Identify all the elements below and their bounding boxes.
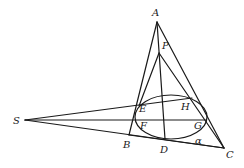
- segment-SH: [25, 98, 192, 120]
- segment-AB: [129, 22, 157, 135]
- label-D: D: [159, 144, 168, 155]
- inscribed-ellipse: [135, 95, 207, 139]
- label-H: H: [180, 101, 190, 112]
- label-B: B: [122, 139, 130, 150]
- label-alpha: α: [195, 135, 202, 146]
- label-G: G: [194, 120, 202, 131]
- label-P: P: [161, 40, 169, 51]
- labels: A P S B D C E F G H α: [13, 7, 234, 160]
- label-S: S: [13, 115, 20, 126]
- label-A: A: [151, 7, 159, 18]
- label-E: E: [138, 103, 147, 114]
- label-F: F: [139, 120, 148, 131]
- label-C: C: [226, 149, 234, 160]
- segment-PE: [139, 53, 159, 106]
- geometry-figure: A P S B D C E F G H α: [0, 0, 244, 168]
